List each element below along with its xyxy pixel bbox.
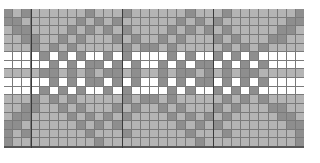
chart-cell xyxy=(296,69,304,77)
chart-cell xyxy=(177,138,185,146)
chart-cell xyxy=(196,104,204,112)
chart-cell xyxy=(177,130,185,138)
chart-cell xyxy=(241,18,249,26)
chart-cell xyxy=(113,61,121,69)
chart-cell xyxy=(223,78,231,86)
chart-cell xyxy=(68,18,76,26)
chart-cell xyxy=(22,52,30,60)
chart-cell xyxy=(196,130,204,138)
chart-cell xyxy=(59,18,67,26)
chart-cell xyxy=(278,95,286,103)
chart-cell xyxy=(141,52,149,60)
chart-cell xyxy=(132,69,140,77)
chart-cell xyxy=(150,18,158,26)
chart-cell xyxy=(168,104,176,112)
chart-cell xyxy=(241,121,249,129)
chart-cell xyxy=(123,113,131,121)
chart-cell xyxy=(4,35,12,43)
chart-cell xyxy=(50,61,58,69)
chart-cell xyxy=(50,113,58,121)
chart-cell xyxy=(214,87,222,95)
chart-cell xyxy=(196,9,204,17)
chart-cell xyxy=(269,44,277,52)
chart-cell xyxy=(13,87,21,95)
chart-cell xyxy=(123,138,131,146)
chart-cell xyxy=(31,18,39,26)
chart-cell xyxy=(95,18,103,26)
chart-cell xyxy=(232,9,240,17)
chart-cell xyxy=(95,61,103,69)
chart-cell xyxy=(232,44,240,52)
chart-cell xyxy=(31,104,39,112)
chart-cell xyxy=(296,104,304,112)
chart-cell xyxy=(86,35,94,43)
chart-cell xyxy=(40,121,48,129)
chart-cell xyxy=(22,95,30,103)
chart-cell xyxy=(269,35,277,43)
chart-cell xyxy=(40,26,48,34)
chart-cell xyxy=(40,95,48,103)
chart-cell xyxy=(241,130,249,138)
chart-cell xyxy=(113,26,121,34)
chart-cell xyxy=(22,130,30,138)
chart-cell xyxy=(186,130,194,138)
chart-cell xyxy=(168,78,176,86)
chart-cell xyxy=(123,104,131,112)
chart-cell xyxy=(232,113,240,121)
chart-cell xyxy=(287,138,295,146)
chart-cell xyxy=(31,113,39,121)
chart-cell xyxy=(159,44,167,52)
chart-cell xyxy=(287,78,295,86)
chart-cell xyxy=(168,35,176,43)
chart-cell xyxy=(269,95,277,103)
chart-cell xyxy=(95,69,103,77)
chart-cell xyxy=(22,78,30,86)
chart-cell xyxy=(223,138,231,146)
chart-cell xyxy=(250,26,258,34)
chart-cell xyxy=(241,26,249,34)
chart-cell xyxy=(68,113,76,121)
chart-cell xyxy=(31,138,39,146)
chart-cell xyxy=(250,61,258,69)
chart-cell xyxy=(269,9,277,17)
chart-cell xyxy=(77,87,85,95)
chart-cell xyxy=(31,69,39,77)
chart-cell xyxy=(159,138,167,146)
chart-cell xyxy=(68,130,76,138)
chart-cell xyxy=(104,69,112,77)
chart-cell xyxy=(259,69,267,77)
chart-cell xyxy=(132,113,140,121)
chart-cell xyxy=(13,95,21,103)
chart-cell xyxy=(31,52,39,60)
chart-cell xyxy=(31,61,39,69)
chart-cell xyxy=(186,113,194,121)
chart-cell xyxy=(68,9,76,17)
chart-cell xyxy=(104,35,112,43)
chart-cell xyxy=(77,130,85,138)
chart-cell xyxy=(278,87,286,95)
chart-cell xyxy=(141,138,149,146)
chart-cell xyxy=(40,35,48,43)
chart-cell xyxy=(177,113,185,121)
chart-cell xyxy=(4,95,12,103)
chart-cell xyxy=(113,130,121,138)
chart-cell xyxy=(150,95,158,103)
chart-cell xyxy=(150,130,158,138)
chart-cell xyxy=(77,44,85,52)
chart-cell xyxy=(159,9,167,17)
chart-cell xyxy=(196,113,204,121)
chart-cell xyxy=(287,35,295,43)
chart-cell xyxy=(250,69,258,77)
chart-cell xyxy=(86,138,94,146)
chart-cell xyxy=(205,69,213,77)
chart-cell xyxy=(259,61,267,69)
chart-cell xyxy=(4,87,12,95)
chart-cell xyxy=(95,78,103,86)
chart-cell xyxy=(113,69,121,77)
chart-cell xyxy=(278,130,286,138)
major-gridline xyxy=(213,9,214,148)
chart-cell xyxy=(205,52,213,60)
chart-cell xyxy=(196,35,204,43)
chart-cell xyxy=(241,87,249,95)
chart-cell xyxy=(141,61,149,69)
